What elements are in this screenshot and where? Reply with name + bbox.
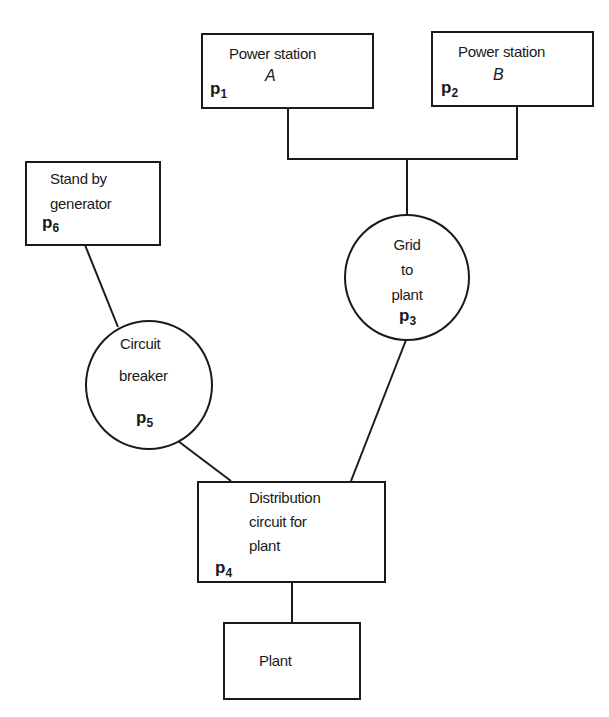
standby-generator-label-1: Stand by [50,169,107,189]
power-station-a-box: Power station A p1 [201,33,374,109]
edge-p3-p4 [351,340,406,481]
grid-to-plant-label: Grid to plant [346,232,468,307]
plant-label: Plant [259,651,292,671]
power-station-b-letter: B [493,65,503,85]
p2-id: p2 [441,78,458,100]
plant-box: Plant [223,622,361,700]
power-station-b-label: Power station [458,42,545,62]
power-station-a-letter: A [265,66,275,86]
distribution-circuit-label-2: circuit for [249,512,307,532]
p3-id: p3 [399,306,416,328]
circuit-breaker-circle: Circuit breaker p5 [85,320,213,450]
grid-to-plant-circle: Grid to plant p3 [344,214,470,341]
edge-p6-p5 [85,245,118,327]
power-station-a-label: Power station [229,44,316,64]
circuit-breaker-label-2: breaker [119,366,168,386]
distribution-circuit-label-1: Distribution [249,488,320,508]
p5-id: p5 [136,408,153,430]
distribution-circuit-label-3: plant [249,536,280,556]
circuit-breaker-label-1: Circuit [120,334,160,354]
p4-id: p4 [215,558,232,580]
p6-id: p6 [42,213,59,235]
p1-id: p1 [210,79,227,101]
edge-p5-p4 [178,441,231,481]
distribution-circuit-box: Distribution circuit for plant p4 [197,481,386,583]
standby-generator-box: Stand by generator p6 [25,161,161,246]
edge-p1-join [288,106,517,159]
power-station-b-box: Power station B p2 [431,31,594,107]
standby-generator-label-2: generator [50,194,112,214]
